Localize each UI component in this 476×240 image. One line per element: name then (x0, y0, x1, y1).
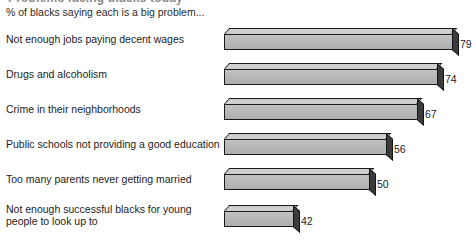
chart-subtitle: % of blacks saying each is a big problem… (6, 6, 204, 18)
category-label: Crime in their neighborhoods (6, 103, 141, 115)
bar-top-face (224, 63, 442, 69)
category-label: Too many parents never getting married (6, 173, 192, 185)
bar-value-label: 74 (445, 73, 457, 85)
bar-front-face (224, 69, 437, 85)
bar-front-face (224, 139, 386, 155)
horizontal-bar-chart: Not enough jobs paying decent wages 79 D… (0, 24, 476, 240)
bar-front-face (224, 211, 293, 227)
bar-value-label: 42 (301, 215, 313, 227)
bar-front-face (224, 34, 452, 50)
bar-top-face (224, 133, 391, 139)
bar-end-cap (417, 98, 424, 126)
bar-top-face (224, 168, 374, 174)
bar (224, 133, 386, 150)
bar (224, 205, 293, 222)
bar (224, 63, 437, 80)
bar-end-cap (437, 63, 444, 91)
bar-value-label: 56 (394, 143, 406, 155)
bar-end-cap (386, 133, 393, 161)
category-label: Not enough jobs paying decent wages (6, 33, 184, 45)
bar-value-label: 79 (460, 38, 472, 50)
bar-top-face (224, 28, 457, 34)
category-label: Public schools not providing a good educ… (6, 138, 220, 150)
bar (224, 98, 417, 115)
bar (224, 168, 369, 185)
clipped-chart-title: Problems facing blacks today (8, 0, 183, 5)
bar-end-cap (369, 168, 376, 196)
category-label: Not enough successful blacks for young p… (6, 203, 192, 227)
category-label: Drugs and alcoholism (6, 68, 107, 80)
bar-value-label: 67 (425, 108, 437, 120)
bar-top-face (224, 205, 298, 211)
bar-front-face (224, 174, 369, 190)
bar-value-label: 50 (377, 178, 389, 190)
bar-top-face (224, 98, 422, 104)
bar-front-face (224, 104, 417, 120)
bar-end-cap (452, 28, 459, 56)
bar (224, 28, 452, 45)
bar-end-cap (293, 205, 300, 233)
